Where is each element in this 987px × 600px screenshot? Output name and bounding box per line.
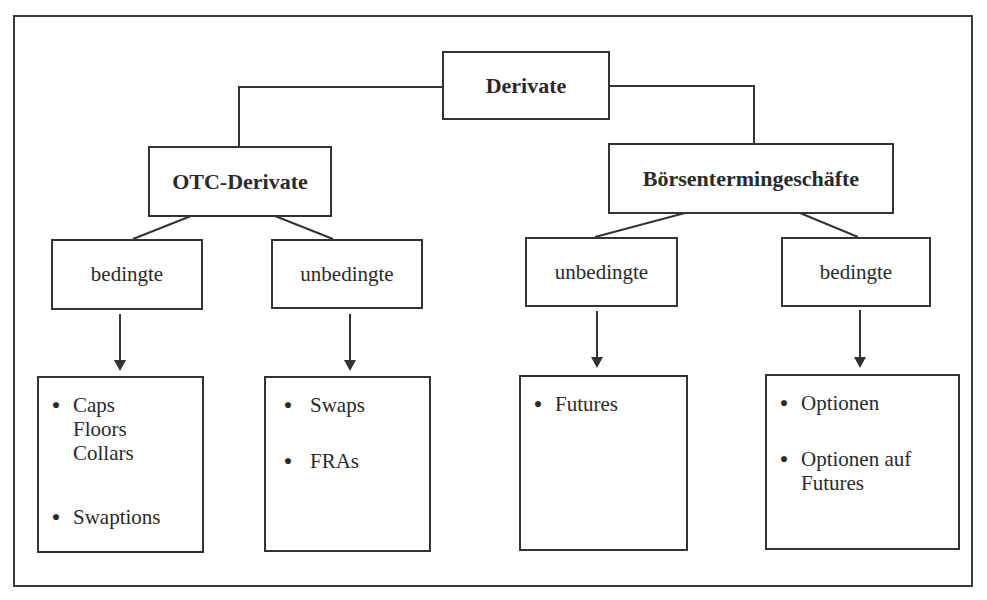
- bullet-icon: ●: [767, 391, 801, 415]
- node-boersentermingeschaefte: Börsentermingeschäfte: [608, 143, 894, 214]
- node-boerse-unbedingte: unbedingte: [525, 237, 678, 307]
- node-otc-unbedingte: unbedingte: [271, 239, 423, 309]
- node-label: Derivate: [486, 73, 567, 99]
- arrow-down-icon: [344, 360, 356, 371]
- node-derivate: Derivate: [442, 51, 610, 120]
- arrow-down-icon: [854, 357, 866, 368]
- list-item: ● Futures: [521, 392, 686, 416]
- node-label: unbedingte: [555, 260, 648, 285]
- arrow-down-icon: [114, 360, 126, 371]
- leaf-boerse-bedingte: ● Optionen ● Optionen auf Futures: [765, 374, 960, 550]
- bullet-icon: ●: [266, 393, 310, 417]
- node-label: Börsentermingeschäfte: [643, 166, 859, 192]
- leaf-boerse-unbedingte: ● Futures: [519, 375, 688, 551]
- bullet-icon: ●: [521, 392, 555, 416]
- list-item: ● FRAs: [266, 449, 429, 473]
- node-otc-bedingte: bedingte: [51, 239, 203, 310]
- leaf-otc-unbedingte: ● Swaps ● FRAs: [264, 376, 431, 552]
- list-item: ● Caps Floors Collars: [39, 393, 202, 465]
- node-label: bedingte: [820, 260, 892, 285]
- connector-boerse-unbedingte: [595, 213, 685, 237]
- list-item: ● Swaps: [266, 393, 429, 417]
- node-boerse-bedingte: bedingte: [781, 237, 931, 307]
- bullet-icon: ●: [767, 447, 801, 495]
- connector-root-otc: [239, 87, 442, 146]
- list-item: ● Optionen auf Futures: [767, 447, 958, 495]
- connector-root-boerse: [609, 86, 754, 143]
- node-label: OTC-Derivate: [172, 169, 308, 195]
- bullet-icon: ●: [39, 505, 73, 529]
- connector-otc-unbedingte: [275, 216, 333, 239]
- arrow-down-icon: [591, 357, 603, 368]
- connector-boerse-bedingte: [800, 213, 858, 237]
- node-label: unbedingte: [300, 262, 393, 287]
- node-otc-derivate: OTC-Derivate: [148, 146, 332, 217]
- bullet-icon: ●: [39, 393, 73, 465]
- list-item: ● Optionen: [767, 391, 958, 415]
- list-item: ● Swaptions: [39, 505, 202, 529]
- bullet-icon: ●: [266, 449, 310, 473]
- leaf-otc-bedingte: ● Caps Floors Collars ● Swaptions: [37, 376, 204, 553]
- connector-otc-bedingte: [133, 216, 191, 239]
- node-label: bedingte: [91, 262, 163, 287]
